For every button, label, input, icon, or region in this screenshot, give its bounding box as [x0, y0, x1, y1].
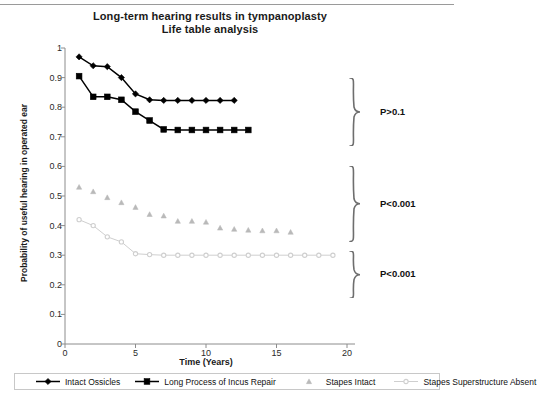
y-tick-label: 0.4	[36, 221, 62, 231]
data-point-triangle	[306, 379, 311, 384]
data-point-circle	[288, 253, 292, 257]
legend-item[interactable]: Long Process of Incus Repair	[132, 376, 278, 387]
legend-item[interactable]: Stapes Intact	[294, 376, 378, 387]
data-point-triangle	[91, 189, 96, 194]
data-point-square	[217, 127, 223, 133]
legend-item[interactable]: Intact Ossicles	[33, 376, 122, 387]
chart-title: Long-term hearing results in tympanoplas…	[60, 10, 360, 23]
data-point-triangle	[161, 213, 166, 218]
data-point-square	[133, 109, 139, 115]
data-point-diamond	[189, 97, 195, 103]
data-point-square	[90, 94, 96, 100]
x-axis-title: Time (Years)	[65, 357, 347, 367]
data-point-circle	[331, 253, 335, 257]
y-tick-label: 0.2	[36, 280, 62, 290]
data-point-square	[144, 379, 150, 385]
data-point-circle	[218, 253, 222, 257]
data-point-square	[147, 118, 153, 124]
y-tick-label: 0.1	[36, 309, 62, 319]
data-point-circle	[246, 253, 250, 257]
data-point-diamond	[147, 97, 153, 103]
data-point-diamond	[231, 97, 237, 103]
data-point-circle	[91, 223, 95, 227]
data-point-triangle	[133, 205, 138, 210]
data-point-circle	[77, 218, 81, 222]
brace-path	[350, 78, 360, 146]
data-point-diamond	[161, 97, 167, 103]
data-point-square	[189, 127, 195, 133]
data-point-square	[245, 127, 251, 133]
y-tick-label: 0.8	[36, 102, 62, 112]
data-point-circle	[133, 252, 137, 256]
brace-path	[350, 166, 360, 241]
data-point-triangle	[105, 195, 110, 200]
data-point-circle	[274, 253, 278, 257]
y-tick-label: 0.9	[36, 73, 62, 83]
data-point-square	[231, 127, 237, 133]
data-point-circle	[317, 253, 321, 257]
legend-marker-circle-icon	[393, 376, 419, 387]
legend-label: Stapes Intact	[326, 377, 376, 387]
y-tick-label: 1	[36, 43, 62, 53]
data-point-circle	[404, 379, 408, 383]
brace-path	[350, 251, 360, 298]
data-point-diamond	[203, 97, 209, 103]
y-axis-tick-labels: 00.10.20.30.40.50.60.70.80.91	[32, 48, 62, 344]
data-point-circle	[260, 253, 264, 257]
legend-item[interactable]: Stapes Superstructure Absent	[391, 376, 538, 387]
legend-marker-triangle-icon	[296, 376, 322, 387]
series-line	[79, 57, 234, 101]
data-point-circle	[176, 253, 180, 257]
data-point-triangle	[217, 225, 222, 230]
legend-marker-diamond-icon	[35, 376, 61, 387]
data-point-circle	[119, 240, 123, 244]
data-point-circle	[303, 253, 307, 257]
p-value-label: P>0.1	[380, 106, 405, 117]
legend-label: Intact Ossicles	[65, 377, 120, 387]
y-axis-title: Probability of useful hearing in operate…	[19, 73, 29, 313]
data-point-triangle	[203, 219, 208, 224]
brace-glyph	[348, 251, 362, 298]
data-point-triangle	[189, 219, 194, 224]
brace-glyph	[348, 166, 362, 241]
data-point-triangle	[76, 184, 81, 189]
data-point-circle	[204, 253, 208, 257]
plot-area	[65, 48, 347, 344]
data-point-triangle	[119, 200, 124, 205]
y-tick-label: 0.3	[36, 250, 62, 260]
data-point-square	[76, 73, 82, 79]
brace-glyph	[348, 78, 362, 146]
plot-canvas	[65, 48, 347, 344]
data-point-triangle	[147, 212, 152, 217]
y-tick-label: 0.5	[36, 191, 62, 201]
data-point-triangle	[274, 228, 279, 233]
data-point-square	[104, 94, 110, 100]
data-point-square	[161, 127, 167, 133]
data-point-triangle	[288, 229, 293, 234]
legend-label: Stapes Superstructure Absent	[423, 377, 536, 387]
data-point-triangle	[232, 227, 237, 232]
data-point-square	[203, 127, 209, 133]
data-point-square	[175, 127, 181, 133]
significance-brace	[348, 166, 362, 241]
y-axis-title-wrap: Probability of useful hearing in operate…	[10, 48, 24, 344]
significance-brace	[348, 251, 362, 298]
data-point-diamond	[175, 97, 181, 103]
series-line	[79, 220, 333, 256]
data-point-diamond	[217, 97, 223, 103]
data-point-circle	[147, 252, 151, 256]
series-2	[76, 184, 293, 234]
data-point-diamond	[45, 378, 51, 384]
data-point-circle	[162, 253, 166, 257]
y-tick-label: 0.7	[36, 132, 62, 142]
y-tick-label: 0.6	[36, 161, 62, 171]
chart-title-block: Long-term hearing results in tympanoplas…	[60, 10, 360, 36]
significance-brace	[348, 78, 362, 146]
data-point-square	[119, 97, 125, 103]
data-point-circle	[232, 253, 236, 257]
p-value-label: P<0.001	[380, 198, 416, 209]
data-point-triangle	[175, 219, 180, 224]
legend-marker-square-icon	[134, 376, 160, 387]
legend-label: Long Process of Incus Repair	[164, 377, 276, 387]
